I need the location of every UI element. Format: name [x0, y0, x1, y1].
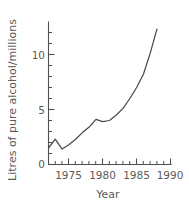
y-tick-label-10: 10 [32, 49, 45, 61]
line-chart: 0 5 10 1975 1980 1985 1990 Year Litres o… [0, 0, 189, 211]
x-axis-major-ticks [69, 159, 171, 165]
x-tick-label-1985: 1985 [123, 169, 150, 181]
y-axis-major-ticks [49, 55, 55, 165]
chart-figure: 0 5 10 1975 1980 1985 1990 Year Litres o… [0, 0, 189, 211]
y-tick-label-0: 0 [38, 158, 45, 170]
x-axis-title: Year [95, 188, 120, 201]
x-tick-label-1990: 1990 [157, 169, 184, 181]
y-tick-label-5: 5 [38, 104, 45, 116]
x-tick-label-1980: 1980 [89, 169, 116, 181]
x-tick-label-1975: 1975 [55, 169, 82, 181]
data-series-line [49, 29, 157, 149]
y-axis-title: Litres of pure alcohol/millions [6, 19, 19, 181]
